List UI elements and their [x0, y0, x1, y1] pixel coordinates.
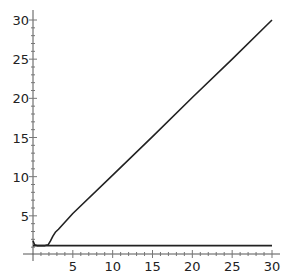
- x-tick-label: 5: [69, 259, 77, 274]
- x-tick-label: 25: [224, 259, 241, 274]
- series-curve: [33, 20, 272, 246]
- line-chart: 5101520253051015202530: [0, 0, 291, 276]
- series-group: [33, 20, 272, 246]
- y-tick-label: 20: [12, 91, 29, 106]
- y-tick-label: 10: [12, 170, 29, 185]
- x-tick-label: 20: [184, 259, 201, 274]
- x-tick-label: 30: [264, 259, 281, 274]
- axes: [23, 10, 280, 261]
- y-tick-label: 25: [12, 52, 29, 67]
- y-tick-label: 15: [12, 131, 29, 146]
- x-tick-label: 15: [144, 259, 161, 274]
- y-tick-label: 5: [21, 209, 29, 224]
- y-tick-label: 30: [12, 13, 29, 28]
- x-tick-label: 10: [104, 259, 121, 274]
